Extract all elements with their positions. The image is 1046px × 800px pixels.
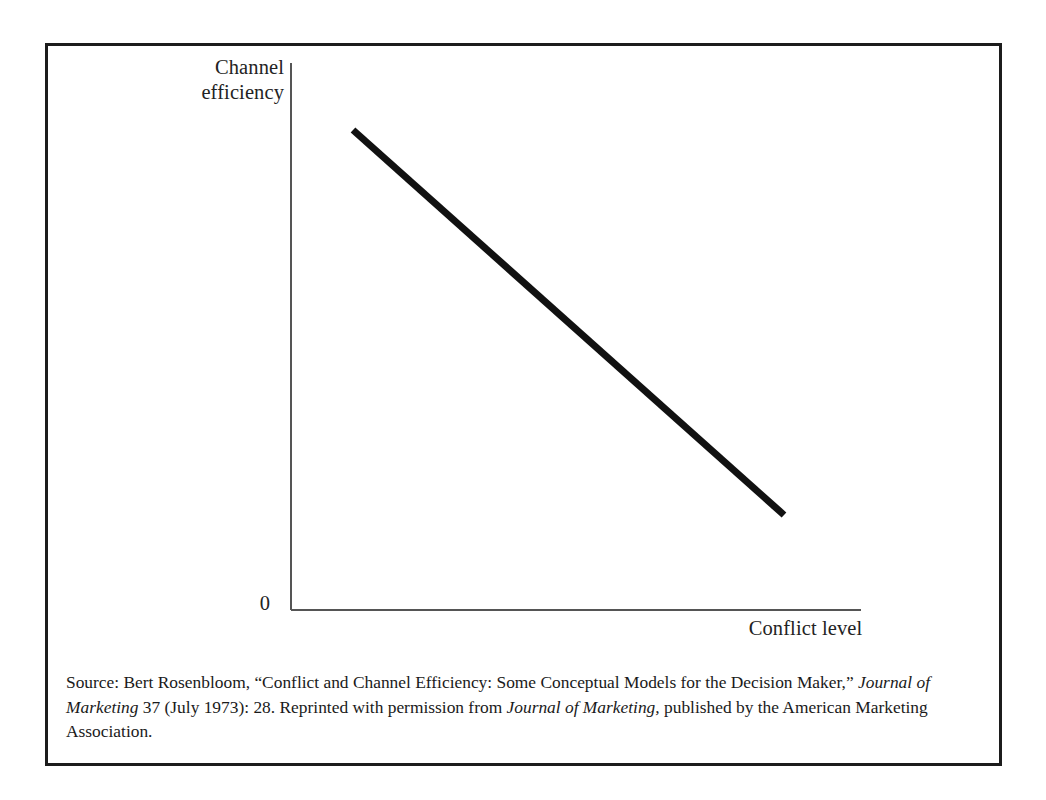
- figure-frame: Channel efficiency 0 Conflict level Sour…: [45, 43, 1002, 766]
- y-axis-label: Channel efficiency: [108, 55, 284, 105]
- source-citation: Source: Bert Rosenbloom, “Conflict and C…: [66, 670, 966, 743]
- chart-canvas: [48, 46, 999, 646]
- efficiency-conflict-data-line: [353, 130, 784, 515]
- y-axis-origin-tick-label: 0: [244, 591, 270, 616]
- plot-area: Channel efficiency 0 Conflict level: [48, 46, 999, 646]
- source-journal-title-second: Journal of Marketing,: [507, 697, 660, 717]
- source-prefix-text: Source: Bert Rosenbloom, “Conflict and C…: [66, 672, 858, 692]
- source-middle-text: 37 (July 1973): 28. Reprinted with permi…: [138, 697, 506, 717]
- x-axis-label: Conflict level: [688, 616, 923, 641]
